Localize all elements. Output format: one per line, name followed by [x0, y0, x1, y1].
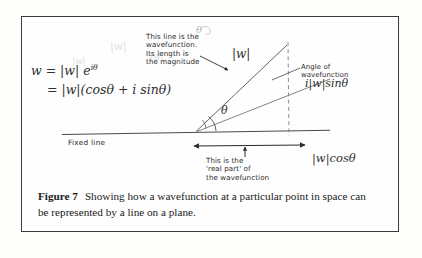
- figure-caption-label: Figure 7: [38, 190, 78, 202]
- equation-line-1-base: w = |w| e: [31, 63, 91, 78]
- label-angle-theta-faint: θ: [196, 24, 202, 36]
- equation-exponential-form: w = |w| eiθ: [31, 63, 98, 79]
- equation-trigonometric-form: = |w|(cosθ + i sinθ): [47, 83, 171, 98]
- label-fixed-line: Fixed line: [68, 139, 105, 148]
- equation-exponent: iθ: [91, 63, 98, 72]
- label-angle-theta: θ: [221, 105, 228, 118]
- figure-caption: Figure 7Showing how a wavefunction at a …: [38, 189, 368, 221]
- label-real-part: |w|cosθ: [312, 152, 356, 166]
- annotation-wavefunction: This line is the wavefunction. Its lengt…: [146, 33, 200, 66]
- label-magnitude: |w|: [232, 47, 250, 61]
- label-imaginary-part: i|w|sinθ: [305, 78, 348, 91]
- annotation-real-part: This is the 'real part' of the wavefunct…: [206, 157, 269, 182]
- figure-caption-text: Showing how a wavefunction at a particul…: [38, 190, 366, 218]
